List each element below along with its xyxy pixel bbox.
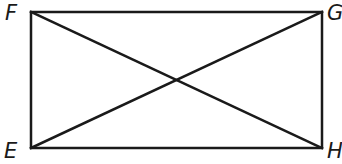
rectangle-diagram: F G E H <box>0 0 342 164</box>
vertex-label-e: E <box>4 139 18 163</box>
vertex-label-f: F <box>5 1 18 25</box>
vertex-label-g: G <box>327 1 342 25</box>
vertex-label-h: H <box>327 139 342 163</box>
